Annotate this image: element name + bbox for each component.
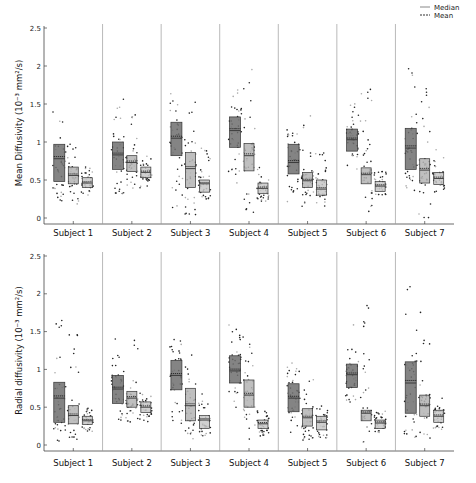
data-point bbox=[61, 320, 63, 322]
data-point bbox=[70, 191, 72, 193]
data-point bbox=[327, 412, 329, 414]
data-point bbox=[179, 183, 181, 185]
data-point bbox=[188, 427, 190, 429]
data-point bbox=[117, 355, 119, 357]
data-point bbox=[261, 176, 263, 178]
data-point bbox=[420, 361, 422, 363]
y-axis-label: Radial diffusivity (10⁻³ mm²/s) bbox=[14, 286, 24, 415]
data-point bbox=[323, 152, 325, 154]
data-point bbox=[287, 367, 289, 369]
data-point bbox=[298, 371, 300, 373]
data-point bbox=[353, 395, 355, 397]
data-point bbox=[319, 434, 321, 436]
data-point bbox=[185, 197, 187, 199]
data-point bbox=[414, 86, 416, 88]
data-point bbox=[142, 399, 144, 401]
data-point bbox=[385, 171, 387, 173]
data-point bbox=[374, 415, 376, 417]
data-point bbox=[234, 107, 236, 109]
data-point bbox=[254, 128, 256, 130]
data-point bbox=[53, 428, 55, 430]
data-point bbox=[112, 358, 114, 360]
data-point bbox=[188, 381, 190, 383]
data-point bbox=[193, 131, 195, 133]
data-point bbox=[132, 187, 134, 189]
data-point bbox=[248, 193, 250, 195]
data-point bbox=[248, 427, 250, 429]
data-point bbox=[204, 407, 206, 409]
data-point bbox=[259, 431, 261, 433]
data-point bbox=[363, 441, 365, 443]
data-point bbox=[315, 177, 317, 179]
data-point bbox=[72, 148, 74, 150]
data-point bbox=[54, 372, 56, 374]
data-point bbox=[178, 350, 180, 352]
data-point bbox=[140, 164, 142, 166]
data-point bbox=[324, 199, 326, 201]
data-point bbox=[380, 176, 382, 178]
data-point bbox=[203, 195, 205, 197]
data-point bbox=[356, 168, 358, 170]
data-point bbox=[291, 187, 293, 189]
data-point bbox=[367, 92, 369, 94]
data-point bbox=[442, 426, 444, 428]
data-point bbox=[246, 193, 248, 195]
y-tick-label: 2.5 bbox=[30, 253, 41, 261]
data-point bbox=[205, 433, 207, 435]
data-point bbox=[171, 411, 173, 413]
data-point bbox=[302, 439, 304, 441]
data-point bbox=[188, 142, 190, 144]
data-point bbox=[365, 150, 367, 152]
data-point bbox=[185, 430, 187, 432]
x-tick-label: Subject 1 bbox=[53, 228, 93, 238]
x-tick-label: Subject 3 bbox=[170, 458, 210, 468]
data-point bbox=[228, 171, 230, 173]
data-point bbox=[292, 135, 294, 137]
data-point bbox=[367, 97, 369, 99]
data-point bbox=[239, 170, 241, 172]
data-point bbox=[123, 136, 125, 138]
data-point bbox=[125, 417, 127, 419]
data-point bbox=[136, 152, 138, 154]
data-point bbox=[118, 356, 120, 358]
data-point bbox=[294, 416, 296, 418]
data-point bbox=[146, 416, 148, 418]
data-point bbox=[78, 200, 80, 202]
data-point bbox=[293, 190, 295, 192]
data-point bbox=[363, 166, 365, 168]
data-point bbox=[122, 414, 124, 416]
data-point bbox=[127, 420, 129, 422]
data-point bbox=[205, 198, 207, 200]
data-point bbox=[244, 416, 246, 418]
data-point bbox=[117, 107, 119, 109]
x-tick-label: Subject 5 bbox=[288, 458, 328, 468]
data-point bbox=[132, 176, 134, 178]
data-point bbox=[443, 157, 445, 159]
data-point bbox=[202, 401, 204, 403]
data-point bbox=[415, 436, 417, 438]
box bbox=[171, 122, 182, 155]
data-point bbox=[367, 148, 369, 150]
data-point bbox=[425, 88, 427, 90]
data-point bbox=[176, 403, 178, 405]
data-point bbox=[249, 117, 251, 119]
data-point bbox=[195, 142, 197, 144]
data-point bbox=[263, 195, 265, 197]
data-point bbox=[251, 352, 253, 354]
data-point bbox=[69, 334, 71, 336]
data-point bbox=[302, 149, 304, 151]
data-point bbox=[232, 331, 234, 333]
data-point bbox=[172, 187, 174, 189]
data-point bbox=[210, 189, 212, 191]
data-point bbox=[56, 193, 58, 195]
box bbox=[54, 144, 65, 181]
data-point bbox=[422, 118, 424, 120]
data-point bbox=[306, 192, 308, 194]
data-point bbox=[146, 398, 148, 400]
data-point bbox=[313, 191, 315, 193]
data-point bbox=[69, 437, 71, 439]
data-point bbox=[290, 412, 292, 414]
data-point bbox=[149, 179, 151, 181]
data-point bbox=[349, 401, 351, 403]
data-point bbox=[146, 185, 148, 187]
